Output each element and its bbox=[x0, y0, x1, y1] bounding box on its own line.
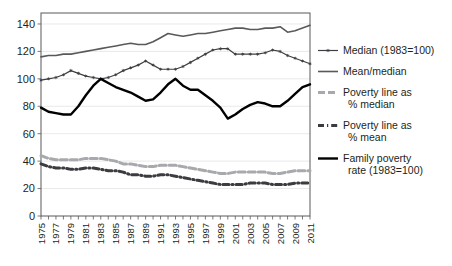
legend-label: Mean/median bbox=[343, 65, 407, 77]
x-axis-tick-label: 1979 bbox=[65, 223, 76, 244]
legend-label: Poverty line as bbox=[343, 86, 412, 98]
x-axis-tick-label: 2003 bbox=[245, 223, 256, 244]
legend-item[interactable]: Family povertyrate (1983=100) bbox=[318, 152, 423, 176]
x-axis-tick-label: 2007 bbox=[275, 223, 286, 244]
x-axis-tick-label: 1995 bbox=[185, 223, 196, 244]
x-axis-tick-label: 1987 bbox=[125, 223, 136, 244]
y-axis-tick-label: 60 bbox=[23, 128, 35, 140]
legend-label: Family poverty bbox=[343, 152, 412, 164]
x-axis-tick-label: 2011 bbox=[305, 223, 316, 243]
data-series-layer bbox=[39, 25, 311, 184]
plot-frame bbox=[41, 13, 310, 216]
series-line bbox=[41, 49, 310, 81]
y-axis-tick-label: 20 bbox=[23, 182, 35, 194]
legend-label-line2: % median bbox=[348, 98, 395, 110]
series-line bbox=[41, 156, 310, 174]
y-axis-ticks bbox=[38, 24, 42, 216]
legend-item[interactable]: Median (1983=100) bbox=[318, 44, 434, 56]
x-axis-tick-label: 1985 bbox=[110, 223, 121, 244]
legend-item[interactable]: Mean/median bbox=[318, 65, 407, 77]
x-axis-tick-label: 1975 bbox=[36, 223, 47, 244]
x-axis-tick-label: 2005 bbox=[260, 223, 271, 244]
series-line bbox=[41, 79, 310, 119]
x-axis-ticks bbox=[41, 216, 310, 220]
y-axis-tick-label: 140 bbox=[17, 18, 35, 30]
y-axis-tick-label: 80 bbox=[23, 100, 35, 112]
y-axis-tick-label: 0 bbox=[29, 210, 35, 222]
x-axis-tick-label: 1993 bbox=[170, 223, 181, 244]
series-line bbox=[41, 25, 310, 57]
legend-label-line2: % mean bbox=[348, 131, 387, 143]
y-axis-tick-label: 100 bbox=[17, 73, 35, 85]
legend-label: Poverty line as bbox=[343, 119, 412, 131]
legend-label: Median (1983=100) bbox=[343, 44, 434, 56]
x-axis-tick-label: 2001 bbox=[230, 223, 241, 244]
x-axis-tick-label: 1981 bbox=[80, 223, 91, 244]
x-axis-tick-label: 2009 bbox=[290, 223, 301, 244]
legend-item[interactable]: Poverty line as% mean bbox=[318, 119, 412, 143]
chart-legend: Median (1983=100)Mean/medianPoverty line… bbox=[318, 44, 434, 176]
series-family_poverty_rate bbox=[41, 79, 310, 119]
x-axis-tick-label: 1983 bbox=[95, 223, 106, 244]
y-axis-labels: 020406080100120140 bbox=[17, 18, 35, 222]
x-axis-tick-label: 1999 bbox=[215, 223, 226, 244]
series-mean_median bbox=[41, 25, 310, 57]
legend-item[interactable]: Poverty line as% median bbox=[318, 86, 412, 110]
x-axis-tick-label: 1989 bbox=[140, 223, 151, 244]
legend-label-line2: rate (1983=100) bbox=[348, 164, 423, 176]
chart-container: 020406080100120140 197519771979198119831… bbox=[0, 0, 452, 266]
x-axis-tick-label: 1991 bbox=[155, 223, 166, 244]
x-axis-tick-label: 1977 bbox=[50, 223, 61, 244]
x-axis-tick-label: 1997 bbox=[200, 223, 211, 244]
x-axis-labels: 1975197719791981198319851987198919911993… bbox=[36, 223, 316, 244]
y-axis-tick-label: 120 bbox=[17, 45, 35, 57]
line-chart: 020406080100120140 197519771979198119831… bbox=[0, 0, 452, 266]
series-poverty_pct_median bbox=[41, 156, 310, 174]
y-axis-tick-label: 40 bbox=[23, 155, 35, 167]
